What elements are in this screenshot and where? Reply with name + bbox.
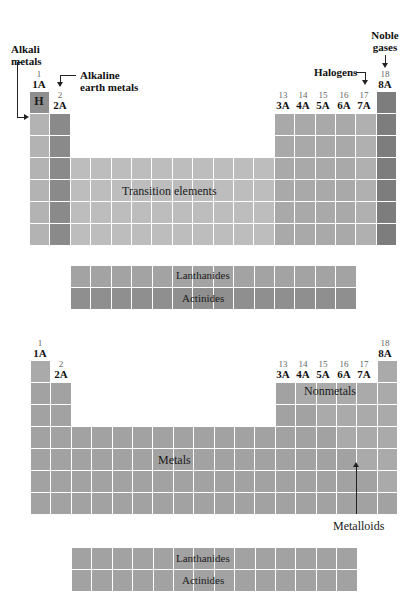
- element-cell: [50, 448, 71, 471]
- element-cell: [214, 426, 235, 449]
- element-cell: [30, 426, 51, 449]
- element-cell: [336, 426, 357, 449]
- element-cell: [356, 470, 377, 493]
- element-cell: [275, 404, 296, 427]
- element-cell: [132, 448, 153, 471]
- element-cell: [112, 470, 133, 493]
- element-cell: [193, 448, 214, 471]
- element-cell: [112, 492, 133, 515]
- element-cell: [193, 492, 214, 515]
- element-cell: [295, 492, 316, 515]
- group-label-3a: 3A: [272, 368, 294, 380]
- element-cell: [193, 470, 214, 493]
- element-cell: [254, 426, 275, 449]
- actinide-cell: [71, 569, 92, 592]
- metals-label: Metals: [158, 453, 191, 468]
- element-cell: [336, 404, 357, 427]
- lanthanide-cell: [275, 547, 296, 570]
- element-cell: [316, 404, 337, 427]
- element-cell: [30, 404, 51, 427]
- element-cell: [295, 426, 316, 449]
- element-cell: [71, 492, 92, 515]
- element-cell: [193, 426, 214, 449]
- element-cell: [152, 470, 173, 493]
- actinide-cell: [295, 569, 316, 592]
- actinide-cell: [336, 569, 357, 592]
- element-cell: [152, 492, 173, 515]
- element-cell: [132, 470, 153, 493]
- element-cell: [71, 426, 92, 449]
- group-label-8a: 8A: [374, 347, 396, 359]
- element-cell: [234, 426, 255, 449]
- element-cell: [254, 492, 275, 515]
- element-cell: [91, 448, 112, 471]
- element-cell: [356, 426, 377, 449]
- element-cell: [71, 448, 92, 471]
- element-cell: [234, 470, 255, 493]
- metalloids-arrow-icon: [353, 462, 359, 467]
- element-cell: [91, 426, 112, 449]
- element-cell: [356, 448, 377, 471]
- actinide-cell: [153, 569, 174, 592]
- element-cell: [173, 492, 194, 515]
- lanthanide-cell: [132, 547, 153, 570]
- element-cell: [50, 470, 71, 493]
- element-cell: [71, 470, 92, 493]
- element-cell: [173, 426, 194, 449]
- actinide-cell: [234, 569, 255, 592]
- group-label-6a: 6A: [333, 368, 355, 380]
- element-cell: [234, 492, 255, 515]
- element-cell: [214, 448, 235, 471]
- element-cell: [30, 360, 51, 383]
- element-cell: [377, 448, 398, 471]
- element-cell: [173, 470, 194, 493]
- element-cell: [336, 470, 357, 493]
- group-label-5a: 5A: [312, 368, 334, 380]
- element-cell: [316, 448, 337, 471]
- element-cell: [30, 492, 51, 515]
- group-label-4a: 4A: [292, 368, 314, 380]
- actinide-cell: [275, 569, 296, 592]
- element-cell: [30, 470, 51, 493]
- element-cell: [91, 470, 112, 493]
- element-cell: [50, 404, 71, 427]
- actinide-cell: [112, 569, 133, 592]
- element-cell: [275, 382, 296, 405]
- element-cell: [356, 492, 377, 515]
- actinide-cell: [255, 569, 276, 592]
- element-cell: [377, 382, 398, 405]
- group-label-7a: 7A: [353, 368, 375, 380]
- element-cell: [295, 448, 316, 471]
- bottom-periodic-table: 1 1A 2 2A 13 3A 14 4A 15 5A 16 6A 17 7A …: [0, 0, 417, 598]
- nonmetals-label: Nonmetals: [304, 384, 356, 399]
- lanthanide-cell: [295, 547, 316, 570]
- element-cell: [316, 492, 337, 515]
- lanthanide-cell: [234, 547, 255, 570]
- lanthanide-cell: [336, 547, 357, 570]
- element-cell: [112, 426, 133, 449]
- lanthanide-cell: [112, 547, 133, 570]
- element-cell: [275, 448, 296, 471]
- element-cell: [316, 470, 337, 493]
- lanthanide-cell: [71, 547, 92, 570]
- element-cell: [295, 470, 316, 493]
- actinide-cell: [316, 569, 337, 592]
- element-cell: [50, 426, 71, 449]
- metalloids-leader: [356, 466, 357, 514]
- element-cell: [254, 448, 275, 471]
- element-cell: [132, 492, 153, 515]
- element-cell: [50, 382, 71, 405]
- element-cell: [275, 470, 296, 493]
- element-cell: [275, 492, 296, 515]
- element-cell: [132, 426, 153, 449]
- element-cell: [336, 492, 357, 515]
- element-cell: [30, 382, 51, 405]
- element-cell: [356, 404, 377, 427]
- element-cell: [112, 448, 133, 471]
- lanthanide-cell: [255, 547, 276, 570]
- lanthanide-cell: [316, 547, 337, 570]
- actinide-cell: [91, 569, 112, 592]
- group-label-2a: 2A: [50, 368, 72, 380]
- element-cell: [275, 426, 296, 449]
- bottom-actinides-label: Actinides: [182, 574, 224, 586]
